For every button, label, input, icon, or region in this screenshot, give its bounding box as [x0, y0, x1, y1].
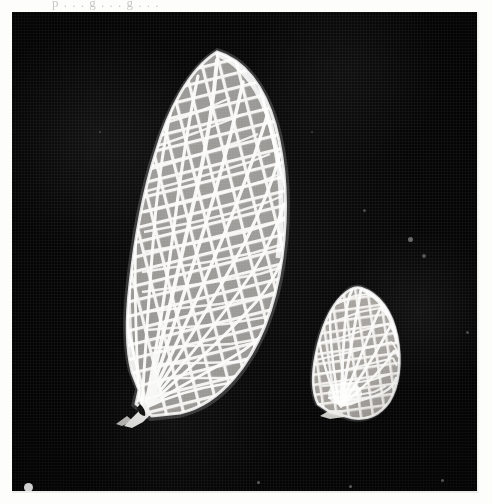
wings-illustration [12, 12, 477, 493]
page-canvas: p . . . g . . . g . . . [0, 0, 492, 504]
plate-right-edge [477, 12, 479, 493]
forewing-shape [116, 47, 297, 428]
hindwing-shape [310, 282, 405, 424]
plate-bottom-edge [12, 491, 479, 493]
photographic-plate [12, 12, 477, 493]
caption-remnant-text: p . . . g . . . g . . . [0, 0, 492, 11]
